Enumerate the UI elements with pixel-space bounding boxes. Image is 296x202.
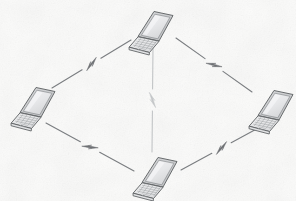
lightning-bolt-icon [149, 92, 156, 107]
link-segment [176, 38, 205, 59]
link-segment [46, 123, 80, 142]
laptop-icon [249, 91, 293, 135]
link-segment [52, 70, 82, 88]
link-segment [223, 71, 252, 92]
link-bottom-right [181, 126, 262, 170]
links-layer [46, 38, 262, 171]
lightning-bolt-icon [83, 57, 99, 70]
node-laptop-bottom[interactable]: Laptop [133, 158, 177, 202]
lightning-bolt-icon [213, 142, 229, 155]
link-top-right [176, 38, 252, 92]
network-canvas: LaptopLaptopLaptopLaptop [0, 0, 296, 201]
link-top-bottom [149, 48, 156, 152]
laptop-icon [129, 12, 173, 56]
link-segment [100, 152, 134, 171]
node-laptop-top[interactable]: Laptop [129, 12, 173, 56]
node-laptop-right[interactable]: Laptop [249, 91, 293, 135]
link-segment [181, 153, 212, 170]
link-segment [101, 40, 131, 58]
nodes-layer: LaptopLaptopLaptopLaptop [11, 12, 293, 202]
link-left-bottom [46, 123, 134, 171]
network-diagram: Wireless mesh network of four laptops [0, 0, 296, 201]
laptop-icon [133, 158, 177, 202]
lightning-bolt-icon [82, 141, 98, 154]
link-left-top [52, 40, 131, 88]
lightning-bolt-icon [206, 58, 222, 72]
